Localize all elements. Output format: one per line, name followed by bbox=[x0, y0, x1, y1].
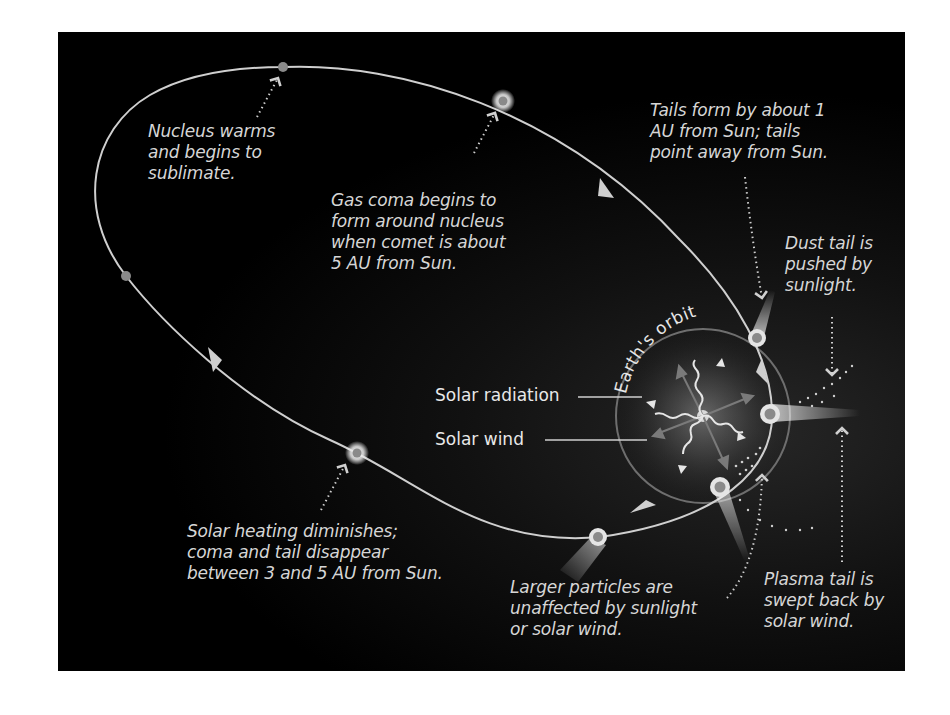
caption-tails-form: Tails form by about 1 AU from Sun; tails… bbox=[650, 100, 828, 163]
caption-nucleus-warms: Nucleus warms and begins to sublimate. bbox=[148, 121, 275, 184]
comet-coma bbox=[748, 329, 766, 347]
orbit-arrow-icon bbox=[208, 347, 222, 372]
comet-coma bbox=[710, 477, 730, 497]
nucleus-dot bbox=[278, 62, 288, 72]
plasma-tail-right bbox=[772, 404, 860, 422]
caption-plasma-tail: Plasma tail is swept back by solar wind. bbox=[764, 569, 884, 632]
caption-dust-tail: Dust tail is pushed by sunlight. bbox=[785, 233, 873, 296]
comet-coma bbox=[345, 441, 369, 465]
caption-gas-coma: Gas coma begins to form around nucleus w… bbox=[331, 190, 505, 274]
comet-coma bbox=[491, 89, 515, 113]
comet-coma bbox=[589, 528, 607, 546]
solar-wind-label: Solar wind bbox=[435, 429, 524, 449]
nucleus-dot bbox=[121, 271, 131, 281]
caption-solar-heating: Solar heating diminishes; coma and tail … bbox=[187, 521, 443, 584]
diagram-panel: Earth's orbit Solar radiation Solar wind… bbox=[58, 32, 905, 671]
comet-coma bbox=[760, 404, 780, 424]
orbit-arrow-icon bbox=[598, 178, 614, 198]
caption-larger-particles: Larger particles are unaffected by sunli… bbox=[510, 577, 697, 640]
solar-radiation-label: Solar radiation bbox=[435, 385, 560, 405]
orbit-arrow-icon bbox=[630, 500, 656, 513]
